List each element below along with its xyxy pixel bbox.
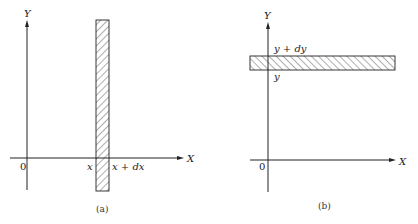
strip-lower-label: y <box>273 71 280 82</box>
panel-b: Y X 0 y + dy y (b) <box>250 10 407 211</box>
y-axis-label: Y <box>264 10 272 21</box>
x-axis-arrow-icon <box>177 156 184 160</box>
y-axis-label: Y <box>24 8 32 19</box>
vertical-strip <box>96 20 109 191</box>
x-axis-label: X <box>398 156 407 167</box>
caption-a: (a) <box>96 204 108 214</box>
x-axis-arrow-icon <box>389 158 396 162</box>
y-axis-arrow-icon <box>266 22 270 29</box>
horizontal-strip <box>250 56 395 70</box>
panel-a: Y X 0 x x + dx (a) <box>10 8 195 214</box>
diagram-canvas: Y X 0 x x + dx (a) Y X 0 y + dy y (b) <box>0 0 418 224</box>
origin-label: 0 <box>259 161 265 172</box>
strip-lower-label: x <box>87 161 93 172</box>
origin-label: 0 <box>20 161 26 172</box>
strip-upper-label: x + dx <box>112 161 145 172</box>
strip-upper-label: y + dy <box>273 43 307 54</box>
y-axis-arrow-icon <box>25 20 29 27</box>
x-axis-label: X <box>186 153 195 164</box>
caption-b: (b) <box>318 201 331 211</box>
